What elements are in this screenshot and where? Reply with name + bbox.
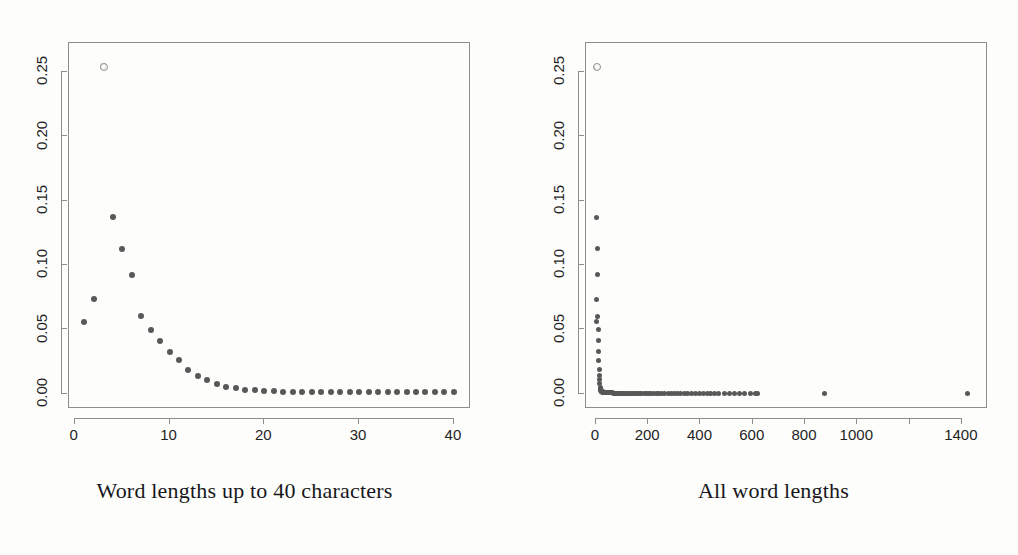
data-point — [722, 391, 727, 396]
x-axis-tick-label: 0 — [70, 426, 78, 443]
data-point — [595, 314, 600, 319]
data-point — [748, 391, 753, 396]
data-point — [394, 389, 400, 395]
highlight-point-marker — [100, 63, 108, 71]
data-point — [280, 389, 286, 395]
data-point — [167, 349, 173, 355]
plot-frame-right — [585, 42, 987, 408]
x-axis-line — [595, 418, 961, 419]
data-point — [129, 272, 135, 278]
data-point — [595, 246, 600, 251]
data-point — [157, 338, 163, 344]
plot-area-right — [586, 43, 986, 407]
data-point — [432, 389, 438, 395]
highlight-point-marker — [593, 63, 601, 71]
data-point — [822, 391, 827, 396]
data-point — [596, 338, 601, 343]
data-point — [328, 389, 334, 395]
x-axis-tick — [453, 418, 454, 424]
caption-right: All word lengths — [539, 478, 1008, 504]
data-point — [195, 373, 201, 379]
y-axis-line — [61, 71, 62, 393]
data-point — [214, 381, 220, 387]
data-point — [451, 389, 457, 395]
plot-area-left — [69, 43, 469, 407]
x-axis-tick — [961, 418, 962, 424]
data-point — [375, 389, 381, 395]
data-point — [596, 349, 601, 354]
data-point — [595, 272, 600, 277]
panel-word-lengths-up-to-40: 0102030400.000.050.100.150.200.25 Word l… — [0, 0, 509, 555]
x-axis-tick-label: 20 — [255, 426, 272, 443]
x-axis-tick-label: 40 — [445, 426, 462, 443]
y-axis-tick — [61, 393, 67, 394]
data-point — [242, 387, 248, 393]
data-point — [356, 389, 362, 395]
data-point — [594, 319, 599, 324]
data-point — [261, 388, 267, 394]
x-axis-tick-label: 10 — [160, 426, 177, 443]
data-point — [965, 391, 970, 396]
figure-two-panel-scatter: 0102030400.000.050.100.150.200.25 Word l… — [0, 0, 1018, 555]
data-point — [148, 327, 154, 333]
data-point — [597, 367, 602, 372]
data-point — [318, 389, 324, 395]
data-point — [204, 377, 210, 383]
data-point — [422, 389, 428, 395]
data-point — [441, 389, 447, 395]
data-point — [233, 385, 239, 391]
x-axis-tick-label: 200 — [635, 426, 660, 443]
data-point — [271, 388, 277, 394]
data-point — [404, 389, 410, 395]
data-point — [290, 389, 296, 395]
x-axis-tick-label: 1000 — [840, 426, 873, 443]
y-axis-tick — [578, 393, 584, 394]
panel-all-word-lengths: 0200400600800100014000.000.050.100.150.2… — [509, 0, 1018, 555]
x-axis-tick-label: 1400 — [944, 426, 977, 443]
x-axis-tick-label: 600 — [739, 426, 764, 443]
x-axis-tick-label: 0 — [591, 426, 599, 443]
data-point — [755, 391, 760, 396]
x-axis-tick-label: 400 — [687, 426, 712, 443]
data-point — [347, 389, 353, 395]
data-point — [742, 391, 747, 396]
x-axis-line — [74, 418, 453, 419]
data-point — [299, 389, 305, 395]
data-point — [716, 391, 721, 396]
data-point — [252, 387, 258, 393]
data-point — [596, 327, 601, 332]
plot-frame-left — [68, 42, 470, 408]
data-point — [185, 367, 191, 373]
data-point — [413, 389, 419, 395]
data-point — [81, 319, 87, 325]
data-point — [110, 214, 116, 220]
data-point — [596, 358, 601, 363]
x-axis-tick-label: 800 — [792, 426, 817, 443]
data-point — [309, 389, 315, 395]
data-point — [594, 215, 599, 220]
data-point — [337, 389, 343, 395]
x-axis-tick-label: 30 — [350, 426, 367, 443]
data-point — [119, 246, 125, 252]
data-point — [594, 297, 599, 302]
data-point — [385, 389, 391, 395]
data-point — [223, 384, 229, 390]
data-point — [727, 391, 732, 396]
data-point — [91, 296, 97, 302]
data-point — [138, 313, 144, 319]
data-point — [176, 357, 182, 363]
caption-left: Word lengths up to 40 characters — [10, 478, 479, 504]
y-axis-line — [578, 71, 579, 393]
data-point — [366, 389, 372, 395]
